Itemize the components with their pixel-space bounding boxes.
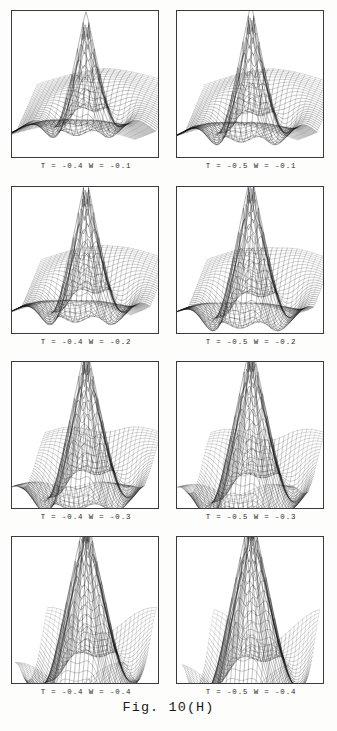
plot-frame [176,10,324,158]
mesh-line [285,256,323,311]
mesh-line [17,268,145,325]
plot-frame [11,186,159,334]
mesh-line [35,453,152,488]
mesh-line [232,362,266,509]
mesh-line [201,271,324,290]
mesh-line [284,611,316,684]
mesh-line [107,612,140,684]
mesh-line [177,85,205,140]
mesh-line [21,192,149,315]
mesh-line [184,262,309,330]
plot-frame [176,186,324,334]
mesh-line [30,539,139,684]
wireframe-surface [12,362,159,509]
mesh-line [135,84,159,139]
mesh-line [187,33,319,133]
mesh-line [180,256,218,311]
mesh-line [198,280,323,297]
mesh-line [115,608,148,684]
panel-caption: T = -0.5 W = -0.4 [176,688,326,696]
mesh-line [210,435,324,453]
panel-caption: T = -0.5 W = -0.1 [176,162,326,170]
wireframe-surface [12,537,159,684]
plot-panel: T = -0.5 W = -0.4 [176,536,326,696]
mesh-line [12,433,45,488]
mesh-line [203,581,309,684]
wireframe-surface [12,187,159,334]
mesh-line [24,428,59,504]
plot-panel: T = -0.5 W = -0.3 [176,361,326,521]
mesh-line [28,362,145,499]
plot-panel: T = -0.5 W = -0.1 [176,10,326,170]
mesh-line [16,12,155,131]
plot-frame [11,361,159,509]
plot-panel: T = -0.4 W = -0.2 [11,186,161,346]
mesh-line [29,274,157,305]
mesh-line [20,608,53,684]
mesh-line [191,94,323,128]
mesh-line [37,458,154,479]
mesh-line [187,611,219,684]
mesh-line [120,608,153,684]
plot-panel: T = -0.4 W = -0.4 [11,536,161,696]
figure-label: Fig. 10(H) [0,700,337,715]
mesh-line [288,610,320,684]
mesh-line [44,430,159,438]
mesh-line [188,187,313,320]
plot-frame [176,536,324,684]
mesh-line [30,380,147,498]
mesh-line [287,81,324,136]
plot-panel: T = -0.5 W = -0.2 [176,186,326,346]
plot-frame [11,10,159,158]
mesh-line [89,602,122,684]
wireframe-surface [177,187,324,334]
mesh-line [14,60,153,134]
panel-caption: T = -0.4 W = -0.1 [11,162,161,170]
mesh-line [29,368,146,498]
panel-caption: T = -0.4 W = -0.2 [11,338,161,346]
mesh-line [18,40,157,127]
panel-caption: T = -0.4 W = -0.3 [11,513,161,521]
wireframe-surface [177,11,324,158]
mesh-line [198,408,312,501]
plot-panel: T = -0.4 W = -0.1 [11,10,161,170]
mesh-line [131,260,159,315]
figure-sheet: T = -0.4 W = -0.1T = -0.5 W = -0.1T = -0… [0,0,337,731]
mesh-line [277,429,311,509]
wireframe-surface [12,11,159,158]
panel-caption: T = -0.5 W = -0.3 [176,513,326,521]
mesh-line [290,258,324,313]
plot-frame [11,536,159,684]
plot-frame [176,361,324,509]
mesh-line [181,431,215,499]
mesh-line [31,390,148,497]
panel-grid: T = -0.4 W = -0.1T = -0.5 W = -0.1T = -0… [0,0,337,700]
panel-caption: T = -0.5 W = -0.2 [176,338,326,346]
mesh-line [12,300,132,314]
panel-caption: T = -0.4 W = -0.4 [11,688,161,696]
mesh-line [22,673,131,684]
wireframe-surface [177,537,324,684]
plot-panel: T = -0.4 W = -0.3 [11,361,161,521]
mesh-line [201,550,307,684]
wireframe-surface [177,362,324,509]
